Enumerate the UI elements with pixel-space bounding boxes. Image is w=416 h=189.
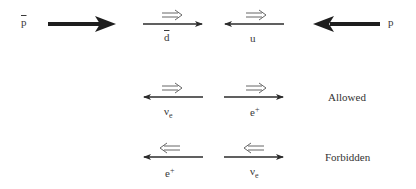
positron-charge-superscript: +	[255, 105, 260, 114]
dbar-symbol: d	[164, 31, 170, 43]
dbar-label: d	[164, 32, 170, 43]
forbidden-neutrino-label: νe	[250, 166, 259, 180]
allowed-neutrino-label: νe	[164, 106, 173, 120]
proton-label: p	[388, 17, 394, 28]
antiproton-label: p	[21, 17, 27, 28]
u-quark-label: u	[250, 33, 256, 44]
dbar-spin-arrow-icon	[162, 10, 182, 20]
positron-charge-superscript: +	[170, 166, 175, 175]
allowed-status-label: Allowed	[328, 91, 366, 103]
forbidden-status-label: Forbidden	[325, 151, 370, 163]
forbidden-positron-label: e+	[165, 167, 174, 179]
allowed-positron-spin-arrow-icon	[246, 83, 266, 93]
antiproton-momentum-arrow-icon	[48, 16, 116, 32]
neutrino-flavor-subscript: e	[169, 111, 173, 120]
antiproton-symbol: p	[21, 16, 27, 28]
proton-momentum-arrow-icon	[313, 16, 380, 32]
forbidden-positron-spin-arrow-icon	[160, 143, 180, 153]
u-spin-arrow-icon	[246, 10, 266, 20]
u-symbol: u	[250, 32, 256, 44]
proton-symbol: p	[388, 16, 394, 28]
forbidden-neutrino-spin-arrow-icon	[244, 143, 264, 153]
allowed-positron-label: e+	[250, 106, 259, 118]
neutrino-flavor-subscript: e	[255, 171, 259, 180]
allowed-neutrino-spin-arrow-icon	[162, 83, 182, 93]
